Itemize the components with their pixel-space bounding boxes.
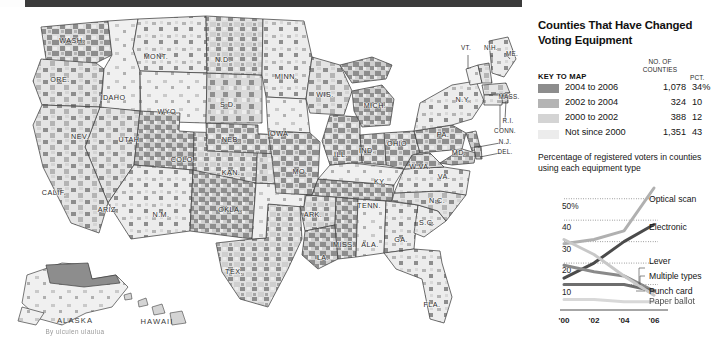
state-label-calif: CALIF. <box>42 188 66 197</box>
series-label-electronic: Electronic <box>649 222 687 232</box>
legend-swatch <box>538 84 559 93</box>
state-label-tex: TEX. <box>225 267 243 276</box>
state-ia <box>266 97 310 133</box>
y-tick-label: 50% <box>562 201 579 211</box>
state-ga <box>384 201 418 253</box>
state-label-la: LA. <box>317 253 329 262</box>
map-legend: KEY TO MAP NO. OF COUNTIES PCT. 2004 to … <box>538 59 719 142</box>
legend-label: Not since 2000 <box>565 127 626 137</box>
state-label-mo: MO. <box>293 167 308 176</box>
state-label-minn: MINN. <box>275 72 298 81</box>
series-line-electronic <box>564 224 654 278</box>
state-label-wva: W.VA. <box>409 162 431 171</box>
state-label-va: VA. <box>438 172 450 181</box>
state-label-pa: PA. <box>437 130 449 139</box>
legend-row[interactable]: 2004 to 2006 1,078 34% <box>538 81 719 96</box>
state-label-ny: N.Y. <box>456 95 471 104</box>
state-label-ind: IND. <box>359 146 375 155</box>
state-label-idaho: IDAHO <box>100 93 125 102</box>
state-mo <box>268 131 320 195</box>
state-label-nm: N.M. <box>153 210 170 219</box>
y-tick-label: 40 <box>562 222 572 232</box>
series-label-punch-card: Punch card <box>649 286 693 296</box>
series-label-lever: Lever <box>649 256 671 266</box>
state-label-wyo: WYO. <box>158 107 179 116</box>
legend-count: 1,351 <box>634 127 686 137</box>
series-line-optical-scan <box>564 188 654 244</box>
state-label-ill: ILL. <box>334 150 348 159</box>
legend-pct: 43 <box>692 127 702 137</box>
page-title: Counties That Have Changed Voting Equipm… <box>538 18 718 47</box>
state-label-nd: N.D. <box>215 55 231 64</box>
state-label-ohio: OHIO <box>387 139 407 148</box>
state-label-mass: MASS. <box>498 93 519 100</box>
state-label-vt: VT. <box>461 44 471 51</box>
equipment-trend-chart[interactable]: 50%40302010'00'02'04'06Optical scanElect… <box>532 180 719 332</box>
legend-header-row: KEY TO MAP NO. OF COUNTIES PCT. <box>538 59 719 81</box>
legend-row[interactable]: 2002 to 2004 324 10 <box>538 96 719 111</box>
state-label-ri: R.I. <box>503 117 514 124</box>
legend-pct-header: PCT. <box>690 74 705 81</box>
state-label-colo: COLO. <box>171 155 196 164</box>
legend-label: 2000 to 2002 <box>565 112 618 122</box>
series-line-paper-ballot <box>564 300 654 302</box>
x-tick-label: '04 <box>619 316 630 325</box>
state-label-nh: N.H. <box>484 44 498 51</box>
state-va <box>394 167 470 195</box>
state-label-okla: OKLA. <box>218 205 241 214</box>
state-label-ore: ORE. <box>50 75 69 84</box>
legend-swatch <box>538 130 559 139</box>
x-tick-label: '02 <box>589 316 600 325</box>
state-label-md: MD. <box>452 148 467 157</box>
state-label-kan: KAN. <box>222 168 241 177</box>
legend-key-header: KEY TO MAP <box>538 72 586 81</box>
legend-label: 2004 to 2006 <box>565 82 618 92</box>
legend-pct: 34% <box>692 82 710 92</box>
state-label-ark: ARK. <box>304 210 323 219</box>
state-label-sd: S.D. <box>220 100 236 109</box>
state-label-wis: WIS. <box>316 90 333 99</box>
state-label-fla: FLA. <box>424 300 441 309</box>
legend-pct: 10 <box>692 97 702 107</box>
right-panel: Counties That Have Changed Voting Equipm… <box>522 0 719 348</box>
state-label-nj: N.J. <box>499 138 511 145</box>
state-label-nc: N.C. <box>429 196 445 205</box>
state-mn <box>262 19 312 99</box>
series-label-multiple-types: Multiple types <box>649 271 702 281</box>
x-tick-label: '06 <box>649 316 660 325</box>
chart-subtitle: Percentage of registered voters in count… <box>538 152 719 174</box>
state-label-ariz: ARIZ. <box>98 205 119 214</box>
state-label-ga: GA. <box>394 235 408 244</box>
state-label-ky: KY. <box>374 177 386 186</box>
map-credit: By ulculen ulaulua <box>45 328 104 336</box>
legend-count: 324 <box>634 97 686 107</box>
state-label-neb: NEB. <box>222 135 241 144</box>
state-label-conn: CONN. <box>494 127 516 134</box>
infographic-page: WASH.ORE.IDAHOMONT.WYO.NEV.UTAHCOLO.CALI… <box>0 0 719 348</box>
legend-label: 2002 to 2004 <box>565 97 618 107</box>
x-tick-label: '00 <box>559 316 570 325</box>
legend-swatch <box>538 99 559 108</box>
series-label-paper-ballot: Paper ballot <box>649 296 695 306</box>
legend-row[interactable]: Not since 2000 1,351 43 <box>538 127 719 142</box>
legend-counties-header: NO. OF COUNTIES <box>634 58 686 73</box>
state-label-me: ME. <box>506 50 518 57</box>
state-mt <box>133 16 207 73</box>
us-choropleth-map[interactable]: WASH.ORE.IDAHOMONT.WYO.NEV.UTAHCOLO.CALI… <box>0 7 522 348</box>
y-tick-label: 10 <box>562 287 572 297</box>
legend-pct: 12 <box>692 112 702 122</box>
state-label-ala: ALA. <box>361 240 378 249</box>
state-label-miss: MISS. <box>333 240 355 249</box>
inset-label-hawaii: HAWAII <box>140 317 173 326</box>
state-label-iowa: IOWA <box>268 129 289 138</box>
state-label-tenn: TENN. <box>357 201 381 210</box>
legend-count: 388 <box>634 112 686 122</box>
state-label-mont: MONT. <box>144 52 169 61</box>
state-label-wash: WASH. <box>59 36 85 45</box>
legend-count: 1,078 <box>634 82 686 92</box>
state-nd <box>206 16 263 75</box>
legend-row[interactable]: 2000 to 2002 388 12 <box>538 111 719 126</box>
state-ms <box>335 197 358 259</box>
series-label-optical-scan: Optical scan <box>649 194 697 204</box>
state-label-del: DEL. <box>497 148 512 155</box>
